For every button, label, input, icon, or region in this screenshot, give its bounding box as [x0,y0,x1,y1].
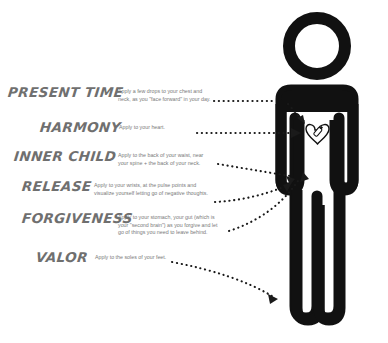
oil-description-harmony: Apply to your heart. [119,124,215,132]
essential-oils-application-poster: PRESENT TIME Apply a few drops to your c… [0,0,388,343]
oil-description-present-time: Apply a few drops to your chest and neck… [118,88,216,103]
oil-name-harmony: HARMONY [39,121,112,135]
oil-entry-present-time: PRESENT TIME Apply a few drops to your c… [8,86,216,103]
oil-entry-valor: VALOR Apply to the soles of your feet. [30,251,191,265]
oil-entry-inner-child: INNER CHILD Apply to the back of your wa… [14,150,214,167]
oil-name-valor: VALOR [29,251,88,265]
oil-entry-harmony: HARMONY Apply to your heart. [40,121,215,135]
oil-name-inner-child: INNER CHILD [13,150,112,164]
oil-name-release: RELEASE [21,180,88,194]
oil-description-valor: Apply to the soles of your feet. [95,254,191,262]
oil-description-release: Apply to your wrists, at the pulse point… [94,182,216,197]
oil-name-present-time: PRESENT TIME [7,86,112,100]
oil-description-forgiveness: Apply to your stomach, your gut (which i… [118,214,224,237]
oil-description-inner-child: Apply to the back of your waist, near yo… [118,152,214,167]
oil-entry-release: RELEASE Apply to your wrists, at the pul… [22,180,216,197]
oil-entries-list: PRESENT TIME Apply a few drops to your c… [0,0,388,343]
oil-entry-forgiveness: FORGIVENESS Apply to your stomach, your … [22,212,224,237]
oil-name-forgiveness: FORGIVENESS [21,212,112,226]
